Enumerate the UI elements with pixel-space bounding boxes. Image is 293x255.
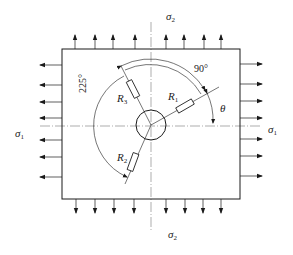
gauge-R1-label: R1 bbox=[168, 91, 178, 104]
gauge-R2 bbox=[127, 153, 139, 172]
left-stress-arrows bbox=[40, 65, 62, 177]
angle-90-label: 90° bbox=[194, 64, 208, 74]
bottom-stress-arrows bbox=[76, 199, 221, 213]
sigma2-top-label: σ2 bbox=[166, 11, 175, 24]
right-stress-arrows bbox=[240, 64, 262, 176]
sigma1-left-label: σ1 bbox=[15, 128, 24, 141]
angle-225-label: 225° bbox=[78, 74, 88, 93]
theta-label: θ bbox=[220, 103, 225, 114]
gauge-R3 bbox=[126, 80, 140, 99]
sigma1-right-label: σ1 bbox=[268, 124, 277, 137]
gauge-R2-label: R2 bbox=[117, 152, 127, 165]
top-stress-arrows bbox=[75, 35, 221, 49]
gauge-R1 bbox=[176, 99, 195, 113]
gauge-R3-label: R3 bbox=[117, 93, 127, 106]
sigma2-bottom-label: σ2 bbox=[168, 229, 177, 242]
stress-plate-diagram bbox=[0, 0, 293, 255]
arc-theta bbox=[207, 93, 213, 123]
